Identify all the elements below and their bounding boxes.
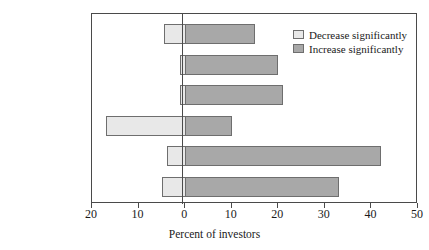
bar-increase-europe — [185, 116, 232, 136]
x-tick-label-3: 10 — [216, 207, 246, 221]
x-tick-label-2: 0 — [169, 207, 199, 221]
zero-reference-line — [182, 14, 183, 204]
bar-row-japan — [92, 172, 416, 202]
decrease-swatch-icon — [293, 30, 304, 39]
bar-increase-united-kingdom — [185, 85, 283, 105]
legend-label-decrease: Decrease significantly — [309, 29, 407, 41]
x-tick-label-6: 40 — [355, 207, 385, 221]
bar-row-europe — [92, 111, 416, 141]
bar-increase-asia-ex-japan — [185, 146, 381, 166]
bar-row-united-kingdom — [92, 80, 416, 110]
bar-increase-japan — [185, 177, 339, 197]
x-tick-label-0: 20 — [76, 207, 106, 221]
x-axis-title: Percent of investors — [0, 228, 429, 240]
x-tick-label-5: 30 — [309, 207, 339, 221]
chart-figure: United States Canada United Kingdom Euro… — [0, 0, 429, 250]
legend-label-increase: Increase significantly — [309, 43, 403, 55]
bar-increase-united-states — [185, 24, 255, 44]
legend-item-increase: Increase significantly — [293, 42, 407, 55]
bar-row-asia-ex-japan — [92, 141, 416, 171]
chart-legend: Decrease significantly Increase signific… — [293, 28, 407, 56]
legend-item-decrease: Decrease significantly — [293, 28, 407, 41]
bar-decrease-asia-ex-japan — [167, 146, 187, 166]
increase-swatch-icon — [293, 44, 304, 53]
x-tick-label-7: 50 — [402, 207, 429, 221]
bar-increase-canada — [185, 55, 278, 75]
bar-decrease-europe — [106, 116, 186, 136]
x-tick-label-4: 20 — [262, 207, 292, 221]
x-tick-label-1: 10 — [123, 207, 153, 221]
